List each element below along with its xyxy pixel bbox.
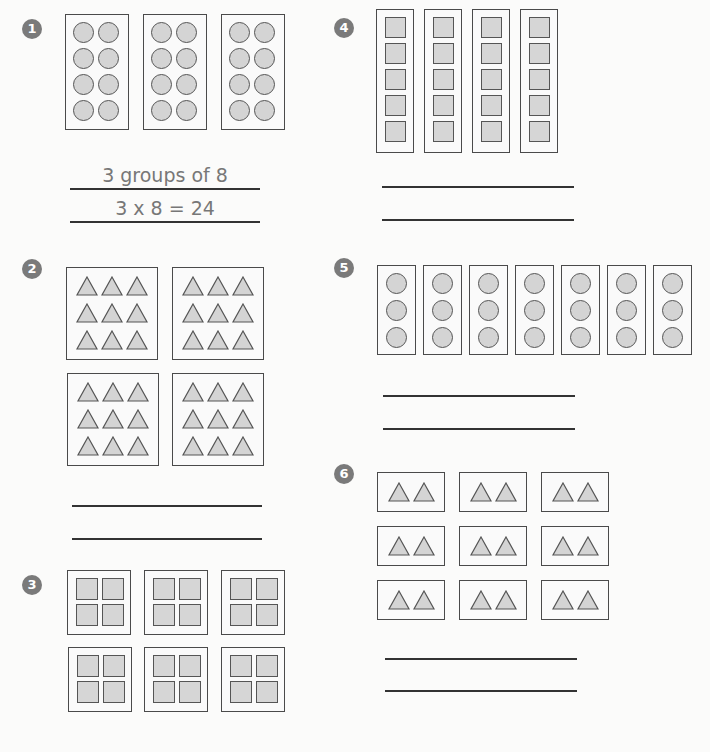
group-box (65, 14, 129, 130)
triangle-icon (207, 303, 229, 323)
square-icon (153, 655, 175, 677)
triangle-icon (552, 482, 574, 502)
square-icon (529, 121, 550, 142)
square-icon (433, 121, 454, 142)
triangle-icon (207, 276, 229, 296)
triangle-icon (232, 382, 254, 402)
answer-line (72, 538, 262, 540)
square-icon (256, 604, 278, 626)
circle-icon (478, 300, 499, 321)
answer-line (383, 428, 575, 430)
square-icon (179, 681, 201, 703)
square-icon (529, 95, 550, 116)
square-icon (179, 655, 201, 677)
group-box (607, 265, 646, 355)
triangle-icon (182, 409, 204, 429)
square-icon (433, 69, 454, 90)
problem-number-badge: 3 (22, 575, 42, 595)
triangle-icon (126, 330, 148, 350)
group-box (67, 570, 131, 635)
triangle-icon (126, 276, 148, 296)
group-box (377, 526, 445, 566)
triangle-icon (77, 436, 99, 456)
triangle-icon (207, 382, 229, 402)
triangle-icon (577, 536, 599, 556)
square-icon (433, 43, 454, 64)
square-icon (256, 655, 278, 677)
answer-line (382, 186, 574, 188)
circle-icon (432, 300, 453, 321)
triangle-icon (232, 303, 254, 323)
group-box (459, 472, 527, 512)
triangle-icon (232, 330, 254, 350)
group-box (221, 570, 285, 635)
triangle-icon (101, 330, 123, 350)
square-icon (385, 121, 406, 142)
triangle-icon (577, 482, 599, 502)
triangle-icon (126, 303, 148, 323)
triangle-icon (470, 536, 492, 556)
circle-icon (616, 300, 637, 321)
group-box (221, 647, 285, 712)
group-box (376, 9, 414, 153)
group-box (172, 373, 264, 466)
group-box (472, 9, 510, 153)
triangle-icon (182, 276, 204, 296)
answer-line (383, 395, 575, 397)
square-icon (481, 17, 502, 38)
triangle-icon (182, 303, 204, 323)
circle-icon (616, 273, 637, 294)
circle-icon (254, 74, 275, 95)
circle-icon (73, 48, 94, 69)
circle-icon (151, 22, 172, 43)
circle-icon (98, 48, 119, 69)
square-icon (102, 604, 124, 626)
circle-icon (570, 273, 591, 294)
square-icon (103, 681, 125, 703)
triangle-icon (470, 590, 492, 610)
group-box (221, 14, 285, 130)
circle-icon (570, 327, 591, 348)
square-icon (256, 578, 278, 600)
triangle-icon (102, 436, 124, 456)
square-icon (481, 69, 502, 90)
triangle-icon (470, 482, 492, 502)
problem-number-badge: 2 (22, 259, 42, 279)
square-icon (76, 578, 98, 600)
group-box (541, 472, 609, 512)
answer-text: 3 groups of 8 (70, 164, 260, 186)
circle-icon (229, 100, 250, 121)
triangle-icon (388, 482, 410, 502)
square-icon (256, 681, 278, 703)
triangle-icon (552, 590, 574, 610)
circle-icon (229, 22, 250, 43)
circle-icon (386, 327, 407, 348)
square-icon (179, 578, 201, 600)
circle-icon (662, 273, 683, 294)
group-box (377, 580, 445, 620)
triangle-icon (77, 409, 99, 429)
triangle-icon (76, 330, 98, 350)
circle-icon (662, 300, 683, 321)
circle-icon (432, 273, 453, 294)
triangle-icon (207, 436, 229, 456)
group-box (66, 267, 158, 360)
circle-icon (151, 100, 172, 121)
square-icon (153, 604, 175, 626)
problem-number-badge: 4 (334, 18, 354, 38)
triangle-icon (127, 382, 149, 402)
circle-icon (73, 74, 94, 95)
triangle-icon (76, 303, 98, 323)
circle-icon (478, 273, 499, 294)
square-icon (433, 17, 454, 38)
circle-icon (229, 74, 250, 95)
circle-icon (176, 100, 197, 121)
answer-line (385, 690, 577, 692)
triangle-icon (232, 436, 254, 456)
answer-text: 3 x 8 = 24 (70, 197, 260, 219)
triangle-icon (102, 382, 124, 402)
circle-icon (73, 100, 94, 121)
circle-icon (432, 327, 453, 348)
group-box (424, 9, 462, 153)
square-icon (153, 681, 175, 703)
